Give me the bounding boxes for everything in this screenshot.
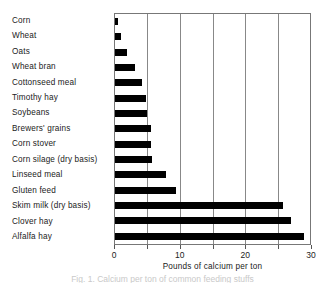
- bar: [115, 217, 291, 224]
- x-tick-label: 30: [306, 250, 315, 260]
- bar-row: [115, 45, 310, 60]
- category-label: Wheat: [0, 28, 110, 43]
- bar: [115, 49, 127, 56]
- figure-caption: Fig. 1. Calcium per ton of common feedin…: [0, 274, 325, 283]
- category-axis-labels: CornWheatOatsWheat branCottonseed mealTi…: [0, 13, 110, 245]
- category-label: Cottonseed meal: [0, 75, 110, 90]
- category-label: Linseed meal: [0, 168, 110, 183]
- bar: [115, 202, 283, 209]
- bar-chart-figure: CornWheatOatsWheat branCottonseed mealTi…: [0, 0, 325, 283]
- category-label: Gluten feed: [0, 183, 110, 198]
- x-tick: [278, 245, 279, 249]
- category-label: Oats: [0, 44, 110, 59]
- category-label: Soybeans: [0, 106, 110, 121]
- x-tick: [213, 245, 214, 249]
- bar: [115, 125, 151, 132]
- bar-row: [115, 29, 310, 44]
- bar-row: [115, 183, 310, 198]
- bar-row: [115, 106, 310, 121]
- bar: [115, 18, 118, 25]
- bar-row: [115, 75, 310, 90]
- bar-row: [115, 14, 310, 29]
- bar-row: [115, 152, 310, 167]
- bar: [115, 141, 151, 148]
- category-label: Clover hay: [0, 214, 110, 229]
- bar: [115, 64, 135, 71]
- x-tick: [147, 245, 148, 249]
- category-label: Corn silage (dry basis): [0, 152, 110, 167]
- bar-row: [115, 229, 310, 244]
- bar: [115, 171, 166, 178]
- bar-row: [115, 167, 310, 182]
- x-tick: [114, 245, 115, 249]
- bar-row: [115, 91, 310, 106]
- x-tick: [245, 245, 246, 249]
- bar: [115, 156, 152, 163]
- bar: [115, 233, 304, 240]
- bar-row: [115, 137, 310, 152]
- x-tick: [311, 245, 312, 249]
- category-label: Corn: [0, 13, 110, 28]
- x-tick-label: 0: [112, 250, 117, 260]
- bar: [115, 79, 142, 86]
- bar: [115, 33, 121, 40]
- category-label: Corn stover: [0, 137, 110, 152]
- bar: [115, 187, 176, 194]
- category-label: Brewers' grains: [0, 121, 110, 136]
- x-axis-title: Pounds of calcium per ton: [114, 262, 311, 271]
- bar-row: [115, 60, 310, 75]
- category-label: Timothy hay: [0, 90, 110, 105]
- category-label: Alfalfa hay: [0, 230, 110, 245]
- x-tick: [180, 245, 181, 249]
- bar-row: [115, 198, 310, 213]
- bar-series: [115, 14, 310, 244]
- category-label: Skim milk (dry basis): [0, 199, 110, 214]
- bar-row: [115, 213, 310, 228]
- x-tick-label: 10: [175, 250, 184, 260]
- bar-row: [115, 121, 310, 136]
- bar: [115, 110, 147, 117]
- plot-area: [114, 13, 311, 245]
- bar: [115, 95, 146, 102]
- x-tick-label: 20: [241, 250, 250, 260]
- category-label: Wheat bran: [0, 59, 110, 74]
